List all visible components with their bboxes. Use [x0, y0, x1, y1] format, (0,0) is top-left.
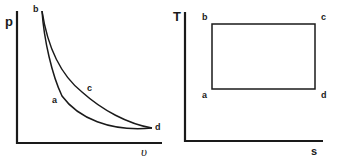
ts-point-a-label: a	[202, 91, 207, 100]
ts-diagram	[185, 12, 323, 141]
pv-point-c-label: c	[87, 84, 92, 93]
ts-cycle-rectangle	[212, 24, 315, 89]
pv-axes	[17, 11, 162, 143]
diagram-canvas	[0, 0, 338, 165]
ts-point-c-label: c	[321, 13, 326, 22]
pv-point-d-label: d	[155, 123, 161, 132]
pv-curve-b-c-d	[42, 11, 152, 128]
ts-y-axis-label: T	[173, 10, 181, 23]
pv-x-axis-label: υ	[141, 145, 147, 158]
pv-diagram	[17, 11, 162, 143]
pv-y-axis-label: p	[5, 15, 13, 28]
ts-axes	[185, 12, 323, 141]
pv-point-b-label: b	[33, 5, 39, 14]
pv-point-a-label: a	[52, 96, 57, 105]
ts-point-d-label: d	[321, 91, 327, 100]
ts-point-b-label: b	[202, 13, 208, 22]
pv-curve-b-a-d	[42, 11, 152, 129]
ts-x-axis-label: s	[311, 146, 317, 157]
